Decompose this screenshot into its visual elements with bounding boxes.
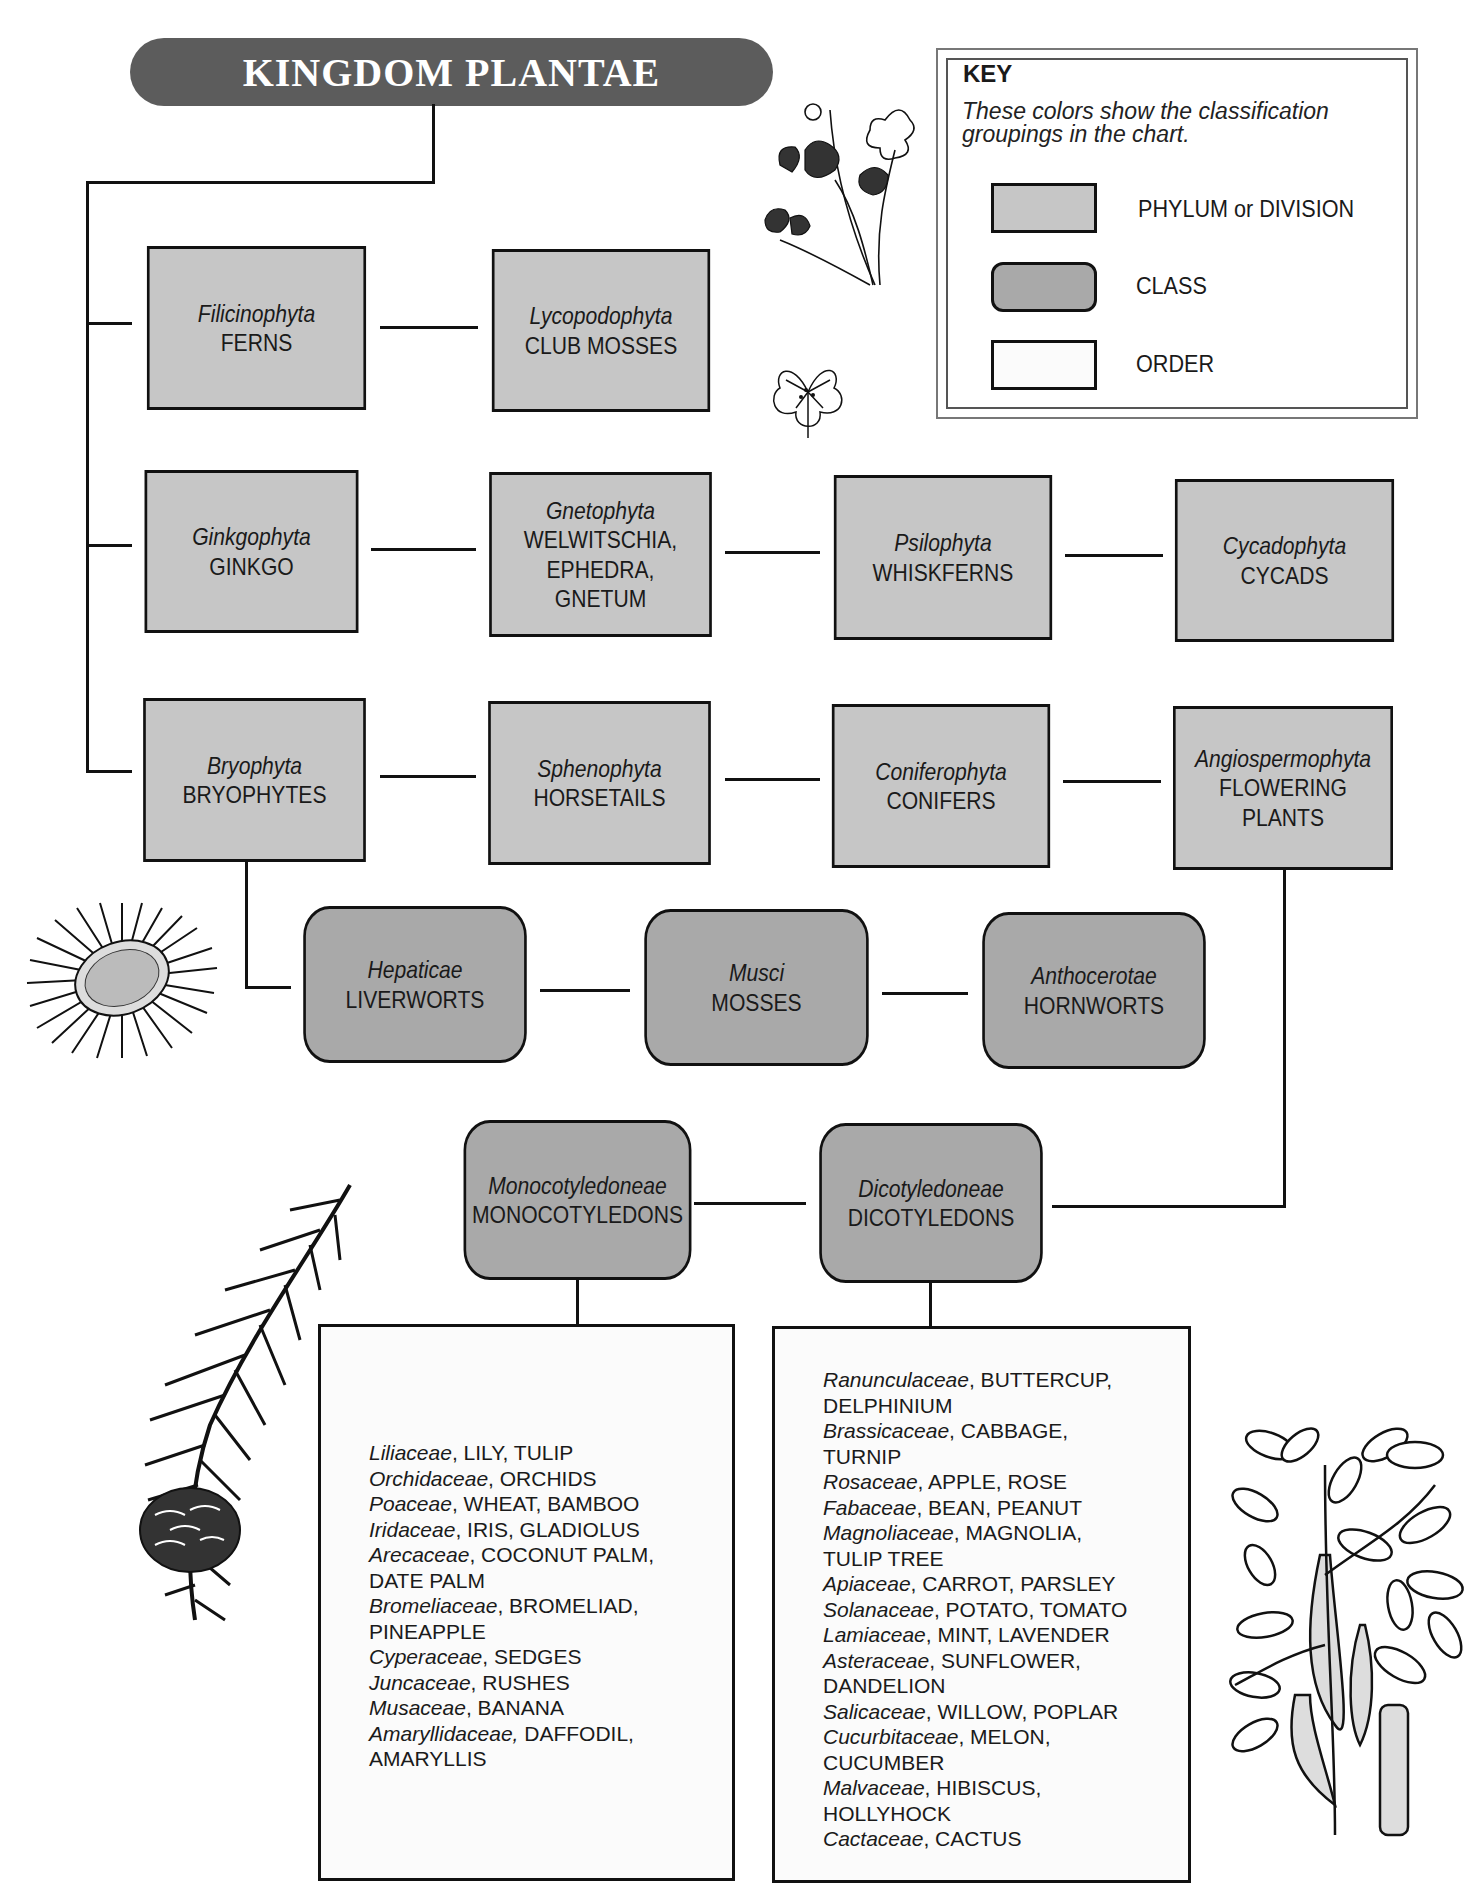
clover-leaf-icon [768,350,848,445]
key-label-order: ORDER [1136,350,1214,378]
wood-sorrel-plant-icon [745,90,915,290]
list-item: Salicaceae, WILLOW, POPLAR [823,1699,1188,1725]
moss-rosette-icon [22,898,222,1063]
list-item: Bromeliaceae, BROMELIAD,PINEAPPLE [369,1593,732,1644]
phylum-lycopodophyta: Lycopodophyta CLUB MOSSES [492,249,710,412]
order-list-dicots: Ranunculaceae, BUTTERCUP,DELPHINIUM Bras… [772,1326,1191,1883]
list-item: Apiaceae, CARROT, PARSLEY [823,1571,1188,1597]
list-item: Cyperaceae, SEDGES [369,1644,732,1670]
phylum-coniferophyta: Coniferophyta CONIFERS [832,704,1050,868]
list-item: Orchidaceae, ORCHIDS [369,1466,732,1492]
list-item: Fabaceae, BEAN, PEANUT [823,1495,1188,1521]
key-label-phylum: PHYLUM or DIVISION [1138,195,1354,223]
phylum-psilophyta: Psilophyta WHISKFERNS [834,475,1052,640]
class-musci: Musci MOSSES [644,909,868,1066]
phylum-sphenophyta: Sphenophyta HORSETAILS [488,701,711,865]
phylum-bryophyta: Bryophyta BRYOPHYTES [143,698,366,862]
list-item: Musaceae, BANANA [369,1695,732,1721]
phylum-cycadophyta: Cycadophyta CYCADS [1175,479,1394,642]
class-hepaticae: Hepaticae LIVERWORTS [303,906,527,1063]
class-anthocerotae: Anthocerotae HORNWORTS [982,912,1206,1069]
list-item: Arecaceae, COCONUT PALM,DATE PALM [369,1542,732,1593]
class-monocotyledoneae: Monocotyledoneae MONOCOTYLEDONS [464,1120,692,1280]
phylum-gnetophyta: Gnetophyta WELWITSCHIA, EPHEDRA, GNETUM [489,472,712,637]
leafy-bean-branch-icon [1225,1425,1475,1845]
key-label-class: CLASS [1136,272,1207,300]
list-item: Juncaceae, RUSHES [369,1670,732,1696]
list-item: Liliaceae, LILY, TULIP [369,1440,732,1466]
list-item: Brassicaceae, CABBAGE,TURNIP [823,1418,1188,1469]
conifer-branch-icon [120,1175,360,1625]
list-item: Poaceae, WHEAT, BAMBOO [369,1491,732,1517]
list-item: Lamiaceae, MINT, LAVENDER [823,1622,1188,1648]
phylum-ginkgophyta: Ginkgophyta GINKGO [145,470,359,633]
key-title: KEY [963,60,1012,88]
order-list-monocots: Liliaceae, LILY, TULIP Orchidaceae, ORCH… [318,1324,735,1881]
list-item: Magnoliaceae, MAGNOLIA,TULIP TREE [823,1520,1188,1571]
list-item: Malvaceae, HIBISCUS,HOLLYHOCK [823,1775,1188,1826]
page-title: KINGDOM PLANTAE [130,38,773,106]
list-item: Asteraceae, SUNFLOWER,DANDELION [823,1648,1188,1699]
list-item: Cactaceae, CACTUS [823,1826,1188,1852]
phylum-angiospermophyta: Angiospermophyta FLOWERING PLANTS [1173,706,1393,870]
swatch-phylum [991,183,1097,233]
list-item: Iridaceae, IRIS, GLADIOLUS [369,1517,732,1543]
list-item: Solanaceae, POTATO, TOMATO [823,1597,1188,1623]
swatch-order [991,340,1097,390]
class-dicotyledoneae: Dicotyledoneae DICOTYLEDONS [819,1123,1043,1283]
key-description: These colors show the classification gro… [962,100,1392,146]
phylum-filicinophyta: Filicinophyta FERNS [147,246,366,410]
list-item: Rosaceae, APPLE, ROSE [823,1469,1188,1495]
swatch-class [991,262,1097,312]
list-item: Ranunculaceae, BUTTERCUP,DELPHINIUM [823,1367,1188,1418]
list-item: Amaryllidaceae, DAFFODIL,AMARYLLIS [369,1721,732,1772]
list-item: Cucurbitaceae, MELON,CUCUMBER [823,1724,1188,1775]
